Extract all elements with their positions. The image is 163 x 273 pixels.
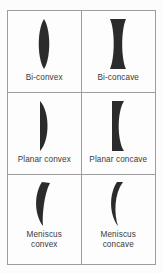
lens-cell-meniscus-concave: Meniscus concave: [82, 175, 156, 264]
lens-label: Meniscus convex: [27, 230, 62, 250]
bi-convex-lens-icon: [29, 17, 59, 71]
planar-convex-lens-icon: [29, 99, 59, 153]
lens-types-figure: Bi-convex Bi-concave Planar convex Plana…: [0, 0, 163, 273]
planar-concave-lens-icon: [103, 99, 133, 153]
lens-cell-planar-convex: Planar convex: [8, 93, 82, 175]
meniscus-convex-lens-icon: [29, 180, 59, 228]
lens-label: Planar convex: [18, 155, 71, 165]
lens-types-table: Bi-convex Bi-concave Planar convex Plana…: [7, 10, 156, 265]
lens-label: Bi-convex: [26, 73, 63, 83]
meniscus-concave-lens-icon: [103, 180, 133, 228]
lens-label: Planar concave: [89, 155, 147, 165]
lens-cell-meniscus-convex: Meniscus convex: [8, 175, 82, 264]
lens-cell-bi-convex: Bi-convex: [8, 11, 82, 93]
lens-cell-planar-concave: Planar concave: [82, 93, 156, 175]
lens-label: Meniscus concave: [101, 230, 136, 250]
lens-cell-bi-concave: Bi-concave: [82, 11, 156, 93]
bi-concave-lens-icon: [103, 17, 133, 71]
lens-label: Bi-concave: [97, 73, 139, 83]
